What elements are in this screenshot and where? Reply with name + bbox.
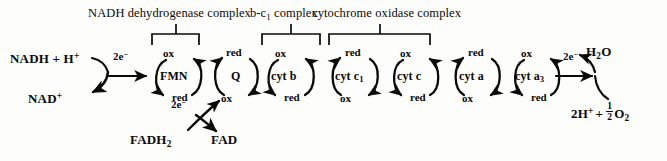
reactant-oxygen: 2H++12O2 xyxy=(571,101,629,123)
state-label-cyt-a3-top: ox xyxy=(521,48,532,59)
substrate-nadh: NADH + H+ xyxy=(10,52,79,65)
carrier-name-q: Q xyxy=(231,70,240,82)
state-label-q-bottom: ox xyxy=(221,93,232,104)
electron-label-oxygen-base: 2e xyxy=(563,50,573,62)
product-water-base: H xyxy=(586,44,596,59)
bracket-cytochrome-oxidase xyxy=(329,24,430,45)
complex-label-b-c1-prefix: b-c xyxy=(250,6,266,20)
state-label-cyt-c1-top: red xyxy=(345,47,361,58)
carrier-name-fmn: FMN xyxy=(160,70,188,82)
product-water: H2O xyxy=(586,45,612,61)
state-label-fmn-top: ox xyxy=(163,48,174,59)
carrier-name-cyt-a3-subscript: 3 xyxy=(540,74,544,84)
carrier-name-cyt-c1: cyt c1 xyxy=(335,70,364,84)
complex-label-b-c1: b-c1 complex xyxy=(250,7,318,22)
electron-label-oxygen-charge: − xyxy=(573,50,578,59)
state-label-cyt-c-bottom: red xyxy=(410,92,426,103)
state-label-cyt-c1-bottom: ox xyxy=(340,93,351,104)
reactant-oxygen-subscript: 2 xyxy=(624,113,629,123)
carrier-name-cyt-c1-prefix: cyt c xyxy=(335,69,359,83)
state-label-cyt-c-top: ox xyxy=(400,48,411,59)
electron-label-nadh-charge: − xyxy=(123,50,128,59)
substrate-fad: FAD xyxy=(211,133,237,146)
reactant-oxygen-fraction: 12 xyxy=(606,101,613,121)
substrate-fadh2-base: FADH xyxy=(130,132,167,147)
product-water-suffix: O xyxy=(601,44,611,59)
electron-label-oxygen: 2e− xyxy=(563,51,578,62)
carrier-name-cyt-b: cyt b xyxy=(271,70,297,84)
bracket-nadh-dehydrogenase xyxy=(152,24,199,45)
substrate-fadh2-subscript: 2 xyxy=(167,139,172,149)
complex-label-nadh-dehydrogenase: NADH dehydrogenase complex xyxy=(88,7,251,20)
carrier-name-cyt-a: cyt a xyxy=(459,70,484,84)
substrate-fadh2: FADH2 xyxy=(130,133,172,149)
reactant-oxygen-proton-charge: + xyxy=(588,106,594,116)
state-label-cyt-a-bottom: ox xyxy=(462,93,473,104)
reactant-oxygen-plus: + xyxy=(596,106,604,121)
fadh2-entry-arcs xyxy=(188,101,219,131)
reactant-oxygen-fraction-denominator: 2 xyxy=(606,112,613,122)
carrier-name-cyt-a3-prefix: cyt a xyxy=(515,69,540,83)
carrier-name-cyt-c-prefix: cyt c xyxy=(397,69,421,83)
substrate-nad-base: NAD xyxy=(28,91,57,106)
carrier-name-cyt-c: cyt c xyxy=(397,70,421,84)
diagram-vector-layer xyxy=(0,0,667,161)
electron-label-nadh: 2e− xyxy=(113,51,128,62)
carrier-name-cyt-b-prefix: cyt b xyxy=(271,69,297,83)
reactant-oxygen-base: O xyxy=(614,106,624,121)
substrate-nad-charge: + xyxy=(57,91,63,101)
bracket-b-c1 xyxy=(262,24,320,45)
complex-label-cytochrome-oxidase: cytochrome oxidase complex xyxy=(312,7,461,20)
carrier-name-cyt-a-prefix: cyt a xyxy=(459,69,484,83)
complex-label-b-c1-suffix: complex xyxy=(271,6,318,20)
state-label-cyt-a-top: red xyxy=(468,47,484,58)
electron-label-nadh-base: 2e xyxy=(113,50,123,62)
substrate-nadh-charge: + xyxy=(74,51,80,61)
nadh-fork-arcs xyxy=(92,58,146,92)
state-label-fmn-bottom: red xyxy=(172,92,188,103)
electron-transport-chain-diagram: NADH dehydrogenase complex b-c1 complex … xyxy=(0,0,667,161)
state-label-q-top: red xyxy=(226,47,242,58)
state-label-cyt-a3-bottom: red xyxy=(531,92,547,103)
state-label-cyt-b-top: ox xyxy=(275,48,286,59)
reactant-oxygen-protons: 2H xyxy=(571,106,588,121)
substrate-nadh-base: NADH + H xyxy=(10,51,74,66)
state-label-cyt-b-bottom: red xyxy=(284,92,300,103)
carrier-name-cyt-c1-subscript: 1 xyxy=(359,74,363,84)
substrate-nad: NAD+ xyxy=(28,92,62,105)
carrier-name-cyt-a3: cyt a3 xyxy=(515,70,544,84)
